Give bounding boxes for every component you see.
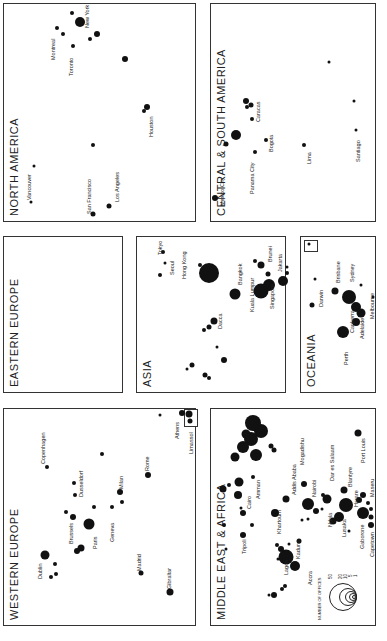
city-dot — [360, 284, 363, 287]
city-dot — [139, 571, 144, 576]
city-dot — [242, 430, 251, 439]
city-label: Khartoum — [276, 510, 282, 534]
city-label: Accra — [307, 571, 313, 585]
city-dot — [272, 448, 277, 453]
city-dot — [278, 546, 284, 552]
city-label: Seoul — [169, 261, 175, 275]
region-title-middle-east-africa: MIDDLE EAST & AFRICA — [215, 484, 227, 620]
city-dot — [355, 129, 358, 132]
city-label: Geneva — [109, 523, 115, 542]
panel-north-america: NORTH AMERICA New York Montreal Toronto … — [3, 3, 196, 222]
city-label: Bogota — [268, 135, 274, 152]
region-title-western-europe: WESTERN EUROPE — [8, 508, 20, 620]
city-dot — [94, 31, 100, 37]
city-dot — [271, 592, 277, 598]
city-label: Melbourne — [369, 293, 375, 319]
city-dot — [266, 272, 271, 277]
city-dot — [348, 530, 351, 533]
city-label: Sydney — [349, 264, 355, 282]
city-dot — [122, 56, 128, 62]
city-dot — [258, 262, 265, 269]
city-dot — [314, 278, 317, 281]
city-dot — [54, 572, 58, 576]
city-label: Brussels — [68, 523, 74, 544]
city-dot — [45, 465, 49, 469]
city-label: Blantyre — [347, 467, 353, 487]
city-dot — [186, 411, 193, 418]
city-label: New York — [84, 5, 90, 28]
city-dot — [366, 501, 370, 505]
panel-asia: ASIA Tokyo Seoul Hong Kong Bangkok Dacca… — [136, 236, 286, 393]
city-dot — [225, 548, 228, 551]
city-dot — [234, 491, 242, 499]
city-dot — [286, 266, 289, 269]
city-label: Paris — [92, 536, 98, 549]
city-label: Montreal — [50, 39, 56, 60]
city-label: Maseru — [369, 479, 375, 497]
city-dot — [224, 142, 229, 147]
city-dot — [88, 37, 92, 41]
city-dot — [100, 452, 104, 456]
inset-map — [304, 240, 318, 252]
city-dot — [369, 507, 373, 511]
city-label: Brisbane — [335, 261, 341, 283]
city-dot — [227, 483, 231, 487]
city-label: San Francisco — [86, 179, 92, 214]
city-label: Cairo — [246, 496, 252, 509]
city-dot — [328, 61, 331, 64]
city-label: Madrid — [136, 554, 142, 571]
city-label: Mogadishu — [299, 438, 305, 465]
city-dot — [285, 271, 289, 275]
city-label: Dusseldorf — [78, 471, 84, 497]
city-dot — [249, 103, 254, 108]
city-label: Kuala Lumpur — [249, 278, 255, 312]
city-label: Rome — [144, 456, 150, 471]
city-label: Dublin — [37, 563, 43, 579]
city-dot — [186, 368, 189, 371]
city-label: Gibraltar — [166, 568, 172, 589]
city-dot — [216, 346, 219, 349]
city-label: Copenhagen — [40, 432, 46, 464]
city-dot — [142, 109, 146, 113]
city-dot — [337, 326, 349, 338]
city-dot — [323, 495, 332, 504]
city-dot — [145, 472, 151, 478]
city-dot — [74, 548, 80, 554]
city-label: Bangkok — [237, 264, 243, 285]
city-dot — [107, 204, 112, 209]
city-dot — [231, 130, 241, 140]
legend-value-1: 1 — [353, 574, 358, 577]
city-label: Mexico City — [219, 178, 225, 206]
city-label: Tokyo — [157, 241, 163, 255]
city-label: Dacca — [217, 313, 223, 329]
city-label: Singapore — [269, 284, 275, 309]
city-dot — [253, 150, 257, 154]
region-title-north-america: NORTH AMERICA — [8, 118, 20, 216]
city-dot — [72, 481, 76, 485]
city-dot — [307, 518, 310, 521]
city-dot — [117, 489, 123, 495]
city-dot — [357, 507, 369, 519]
city-dot — [332, 288, 339, 295]
city-label: Los Angeles — [114, 172, 120, 202]
city-dot — [360, 492, 366, 498]
city-label: Adelaide — [359, 318, 365, 339]
legend-value-50: 50 — [328, 574, 333, 579]
city-dot — [277, 558, 280, 561]
city-dot — [158, 273, 162, 277]
city-label: Toronto — [68, 58, 74, 76]
city-label: Brunei — [267, 246, 273, 262]
city-dot — [237, 441, 249, 453]
city-dot — [357, 309, 366, 318]
city-dot — [207, 376, 211, 380]
city-label: Darwin — [318, 290, 324, 307]
city-dot — [30, 201, 33, 204]
city-dot — [353, 100, 356, 103]
city-dot — [49, 575, 53, 579]
city-dot — [164, 262, 167, 265]
city-dot — [71, 44, 75, 48]
city-dot — [250, 523, 254, 527]
city-dot — [188, 419, 193, 424]
city-dot — [355, 430, 362, 437]
city-dot — [55, 26, 59, 30]
